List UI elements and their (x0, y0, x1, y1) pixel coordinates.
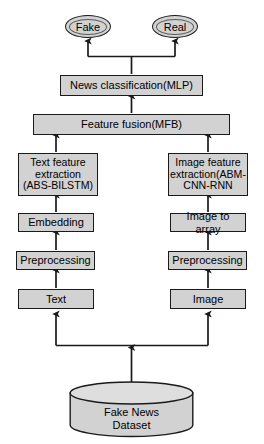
output-node-real[interactable]: Real (152, 15, 198, 38)
node-feature-fusion[interactable]: Feature fusion(MFB) (33, 114, 230, 135)
node-news-classification-label: News classification(MLP) (68, 79, 195, 91)
node-preprocessing-text-label: Preprocessing (18, 254, 92, 266)
flowchart-diagram: Fake Real News classification(MLP) Featu… (0, 0, 264, 444)
node-text-label: Text (44, 293, 68, 305)
node-dataset[interactable]: Fake News Dataset (69, 381, 194, 439)
node-dataset-label: Fake News Dataset (69, 406, 194, 431)
node-text-feature-extraction[interactable]: Text feature extraction (ABS-BILSTM) (18, 153, 98, 196)
node-embedding-label: Embedding (26, 216, 86, 228)
output-node-fake[interactable]: Fake (65, 15, 111, 38)
node-image-feature-extraction-label: Image feature extraction(ABM- CNN-RNN (168, 157, 248, 193)
output-node-real-label: Real (164, 21, 187, 33)
node-feature-fusion-label: Feature fusion(MFB) (79, 118, 184, 130)
node-embedding[interactable]: Embedding (18, 213, 94, 232)
node-preprocessing-image-label: Preprocessing (170, 254, 244, 266)
node-preprocessing-text[interactable]: Preprocessing (16, 251, 95, 270)
node-text[interactable]: Text (18, 289, 94, 309)
node-preprocessing-image[interactable]: Preprocessing (168, 251, 247, 270)
node-image-feature-extraction[interactable]: Image feature extraction(ABM- CNN-RNN (168, 153, 248, 196)
node-text-feature-extraction-label: Text feature extraction (ABS-BILSTM) (21, 157, 95, 193)
node-news-classification[interactable]: News classification(MLP) (60, 75, 203, 96)
node-image-label: Image (191, 293, 226, 305)
node-image-to-array-label: Image to array (171, 210, 245, 235)
node-image[interactable]: Image (170, 289, 246, 309)
node-image-to-array[interactable]: Image to array (170, 213, 246, 232)
output-node-fake-label: Fake (76, 21, 100, 33)
